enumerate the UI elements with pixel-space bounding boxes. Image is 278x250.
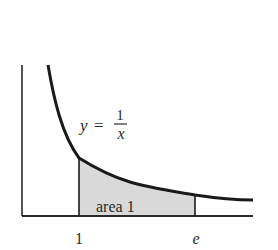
equation-label: y = 1 x xyxy=(78,107,127,142)
area-label: area 1 xyxy=(96,198,135,215)
equation-numerator: 1 xyxy=(116,107,124,123)
reciprocal-function-diagram: y = 1 x area 1 1 e xyxy=(0,0,278,250)
x-tick-label-1: 1 xyxy=(75,230,83,247)
equation-equals: = xyxy=(94,116,104,135)
equation-denominator: x xyxy=(116,125,124,142)
equation-lhs: y xyxy=(78,116,88,135)
x-tick-label-e: e xyxy=(192,230,199,247)
